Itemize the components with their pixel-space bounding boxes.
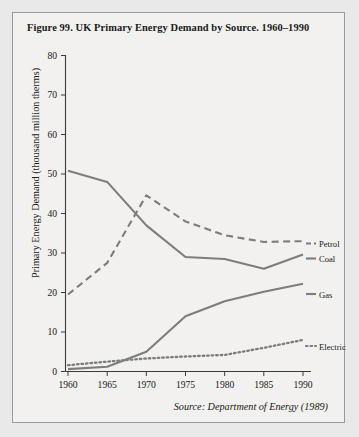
y-tick-label-20: 20 <box>47 287 57 298</box>
series-label-electricity-group: Electricity <box>306 342 346 352</box>
series-line-electricity <box>68 340 303 365</box>
y-tick-label-30: 30 <box>47 247 57 258</box>
x-tick-label-1975: 1975 <box>176 379 195 390</box>
series-label-petrol: Petrol <box>319 239 340 249</box>
source-caption: Source: Department of Energy (1989) <box>13 401 328 412</box>
series-label-electricity: Electricity <box>319 342 346 352</box>
figure-panel: Figure 99. UK Primary Energy Demand by S… <box>12 12 345 423</box>
y-axis-title: Primary Energy Demand (thousand million … <box>30 68 42 278</box>
x-tick-label-1970: 1970 <box>137 379 156 390</box>
y-tick-label-70: 70 <box>47 89 57 100</box>
y-tick-label-10: 10 <box>47 326 57 337</box>
series-label-coal-group: Coal <box>306 254 336 264</box>
y-axis-ticks <box>61 56 66 372</box>
y-tick-label-0: 0 <box>52 366 57 377</box>
y-tick-label-40: 40 <box>47 208 57 219</box>
y-tick-label-50: 50 <box>47 168 57 179</box>
line-chart: Primary Energy Demand (thousand million … <box>13 13 346 424</box>
x-axis-ticks <box>68 372 303 377</box>
series-line-petrol <box>68 195 303 294</box>
series-label-coal: Coal <box>319 254 336 264</box>
x-tick-label-1990: 1990 <box>293 379 312 390</box>
series-label-gas: Gas <box>319 290 333 300</box>
series-label-gas-group: Gas <box>306 290 333 300</box>
x-tick-label-1960: 1960 <box>58 379 77 390</box>
x-tick-label-1965: 1965 <box>98 379 117 390</box>
series-label-petrol-group: Petrol <box>306 239 340 249</box>
x-tick-label-1980: 1980 <box>215 379 234 390</box>
series-line-coal <box>68 171 303 269</box>
y-tick-label-60: 60 <box>47 129 57 140</box>
x-tick-label-1985: 1985 <box>254 379 273 390</box>
y-tick-label-80: 80 <box>47 50 57 61</box>
